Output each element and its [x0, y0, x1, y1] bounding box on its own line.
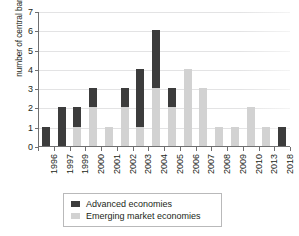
bar-2010 — [247, 107, 255, 146]
x-axis-tick-label: 2009 — [239, 154, 248, 174]
legend-swatch-emerging — [71, 213, 80, 219]
bar-segment-emerging — [152, 88, 160, 146]
y-axis-tickmark — [35, 89, 38, 90]
y-axis-line — [38, 12, 39, 148]
legend-item-emerging: Emerging market economies — [71, 210, 215, 222]
bar-segment-advanced — [136, 69, 144, 127]
y-axis-tick-label: 5 — [28, 46, 33, 55]
bar-segment-emerging — [184, 69, 192, 146]
x-axis-tickmark — [101, 147, 102, 151]
bar-2008 — [215, 127, 223, 146]
x-axis-tick-label: 2010 — [255, 154, 264, 174]
bar-chart: number of central banks 01234567 1996199… — [0, 0, 299, 236]
y-axis-tick-label: 4 — [28, 65, 33, 74]
bar-segment-emerging — [136, 127, 144, 146]
x-axis-tick-label: 1999 — [81, 154, 90, 174]
bar-1997 — [58, 107, 66, 146]
bar-2000 — [89, 88, 97, 146]
bar-2007 — [199, 88, 207, 146]
legend-label-advanced: Advanced economies — [86, 200, 172, 209]
x-axis-tick-label: 2013 — [270, 154, 279, 174]
x-axis-tick-label: 1997 — [66, 154, 75, 174]
x-axis-tickmark — [148, 147, 149, 151]
bar-2018 — [278, 127, 286, 146]
bar-segment-emerging — [215, 127, 223, 146]
x-axis-tick-label: 2002 — [129, 154, 138, 174]
y-axis-tick-label: 2 — [28, 104, 33, 113]
y-axis-tickmark — [35, 31, 38, 32]
x-axis-tickmark — [196, 147, 197, 151]
x-axis-tick-label: 2006 — [192, 154, 201, 174]
bar-segment-emerging — [199, 88, 207, 146]
x-axis-tick-label: 2018 — [286, 154, 295, 174]
y-axis-tickmark — [35, 128, 38, 129]
x-axis-tickmark — [259, 147, 260, 151]
bar-segment-emerging — [105, 127, 113, 146]
bar-1996 — [42, 127, 50, 146]
y-axis-tick-label: 7 — [28, 8, 33, 17]
x-axis-tick-label: 2008 — [223, 154, 232, 174]
bar-segment-advanced — [168, 88, 176, 107]
x-axis-tickmark — [211, 147, 212, 151]
bar-segment-advanced — [121, 88, 129, 107]
bar-2013 — [262, 127, 270, 146]
bar-segment-emerging — [73, 127, 81, 146]
chart-legend: Advanced economies Emerging market econo… — [63, 193, 222, 227]
y-axis-tickmark — [35, 70, 38, 71]
x-axis-tickmark — [54, 147, 55, 151]
x-axis-tickmark — [180, 147, 181, 151]
x-axis-tickmark — [290, 147, 291, 151]
y-axis-tick-label: 1 — [28, 123, 33, 132]
bars-layer — [38, 12, 290, 147]
bar-2006 — [184, 69, 192, 146]
bar-segment-emerging — [121, 107, 129, 146]
bar-1999 — [73, 107, 81, 146]
x-axis-tick-label: 2007 — [207, 154, 216, 174]
plot-area — [38, 12, 290, 147]
x-axis-tick-label: 2003 — [144, 154, 153, 174]
x-axis-tickmark — [274, 147, 275, 151]
bar-segment-emerging — [231, 127, 239, 146]
bar-segment-advanced — [42, 127, 50, 146]
y-axis-tickmark — [35, 51, 38, 52]
bar-segment-advanced — [152, 30, 160, 88]
bar-2001 — [105, 127, 113, 146]
y-axis-tick-label: 0 — [28, 143, 33, 152]
y-axis-tick-label: 6 — [28, 27, 33, 36]
x-axis-tick-label: 2004 — [160, 154, 169, 174]
bar-segment-advanced — [278, 127, 286, 146]
bar-segment-emerging — [247, 107, 255, 146]
bar-2003 — [136, 69, 144, 146]
bar-segment-advanced — [58, 107, 66, 146]
x-axis-tickmark — [133, 147, 134, 151]
y-axis-title: number of central banks — [14, 0, 24, 98]
legend-label-emerging: Emerging market economies — [86, 212, 201, 221]
bar-segment-emerging — [168, 107, 176, 146]
y-axis-tickmark — [35, 12, 38, 13]
legend-item-advanced: Advanced economies — [71, 198, 215, 210]
bar-2005 — [168, 88, 176, 146]
x-axis-tickmark — [117, 147, 118, 151]
bar-2009 — [231, 127, 239, 146]
legend-swatch-advanced — [71, 201, 80, 207]
x-axis-tick-label: 2005 — [176, 154, 185, 174]
bar-2002 — [121, 88, 129, 146]
x-axis-tickmark — [164, 147, 165, 151]
x-axis-tick-label: 2001 — [113, 154, 122, 174]
bar-segment-advanced — [89, 88, 97, 107]
y-axis-tick-label: 3 — [28, 85, 33, 94]
y-axis-tickmark — [35, 108, 38, 109]
bar-segment-emerging — [89, 107, 97, 146]
bar-segment-advanced — [73, 107, 81, 126]
x-axis-tickmark — [85, 147, 86, 151]
x-axis-tickmark — [227, 147, 228, 151]
bar-segment-emerging — [262, 127, 270, 146]
x-axis-tickmark — [243, 147, 244, 151]
x-axis-tickmark — [38, 147, 39, 151]
bar-2004 — [152, 30, 160, 146]
x-axis-tickmark — [70, 147, 71, 151]
x-axis-tick-label: 1996 — [50, 154, 59, 174]
x-axis-tick-label: 2000 — [97, 154, 106, 174]
